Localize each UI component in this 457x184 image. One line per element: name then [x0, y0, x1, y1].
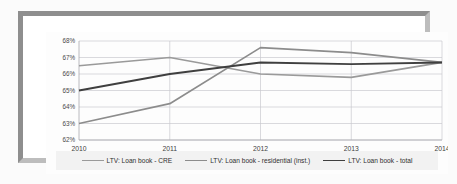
y-tick-label: 66% — [62, 70, 75, 77]
legend-swatch-total — [323, 160, 345, 161]
chart-legend: LTV: Loan book - CRE LTV: Loan book - re… — [46, 151, 448, 170]
legend-swatch-cre — [82, 160, 104, 161]
y-axis-tick-labels: 68%67%66%65%64%63%62% — [62, 37, 75, 143]
chart-card: 68%67%66%65%64%63%62% 201020112012201320… — [46, 32, 448, 174]
legend-item-cre[interactable]: LTV: Loan book - CRE — [82, 157, 173, 164]
y-tick-label: 63% — [62, 120, 75, 127]
chart-frame: 68%67%66%65%64%63%62% 201020112012201320… — [18, 11, 430, 163]
legend-item-total[interactable]: LTV: Loan book - total — [323, 157, 412, 164]
legend-label-cre: LTV: Loan book - CRE — [107, 157, 173, 164]
y-tick-label: 65% — [62, 87, 75, 94]
y-tick-label: 68% — [62, 37, 75, 44]
legend-label-total: LTV: Loan book - total — [348, 157, 412, 164]
y-tick-label: 67% — [62, 54, 75, 61]
y-tick-label: 64% — [62, 103, 75, 110]
y-tick-label: 62% — [62, 136, 75, 143]
legend-item-residential[interactable]: LTV: Loan book - residential (inst.) — [185, 157, 310, 164]
legend-label-residential: LTV: Loan book - residential (inst.) — [210, 157, 310, 164]
legend-swatch-residential — [185, 160, 207, 161]
